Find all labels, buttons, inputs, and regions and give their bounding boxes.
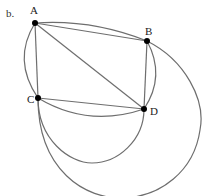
label-b: B [145,25,152,37]
label-d: D [150,105,158,117]
point-a [32,20,38,26]
segment-bd [144,41,147,109]
point-c [35,95,41,101]
label-c: C [27,93,34,105]
label-a: A [30,4,38,16]
segment-ad [35,23,144,109]
point-d [141,106,147,112]
geometry-diagram: b. A B C D [0,0,205,196]
segment-ac [35,23,38,98]
point-b [144,38,150,44]
figure-label: b. [6,7,15,19]
segment-cd [38,98,144,109]
arc-b-c-large-outer [38,41,201,196]
